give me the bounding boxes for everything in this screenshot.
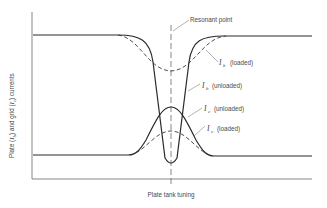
svg-text:(loaded): (loaded) — [217, 125, 240, 133]
svg-text:I: I — [206, 124, 210, 133]
curve-ic-unloaded — [33, 107, 312, 156]
leader-ic-unloaded — [188, 108, 202, 117]
label-ic-unloaded: I c (unloaded) — [203, 104, 244, 114]
x-axis-label: Plate tank tuning — [148, 191, 195, 199]
svg-text:I: I — [203, 104, 207, 113]
svg-text:b: b — [206, 86, 209, 91]
svg-text:b: b — [223, 63, 226, 68]
svg-text:c: c — [211, 129, 214, 134]
label-ic-loaded: I c (loaded) — [206, 124, 240, 134]
svg-text:(unloaded): (unloaded) — [212, 82, 242, 90]
label-ib-unloaded: I b (unloaded) — [201, 81, 242, 91]
svg-text:I: I — [201, 81, 205, 90]
curve-ib-loaded — [118, 35, 226, 71]
curve-ib-unloaded — [33, 35, 312, 163]
label-ib-loaded: I b (loaded) — [218, 58, 253, 68]
svg-text:c: c — [208, 109, 211, 114]
y-axis-label: Plate (Ib) and grid (Ic) currents — [8, 73, 17, 158]
leader-ic-loaded — [194, 126, 205, 136]
svg-text:I: I — [218, 58, 222, 67]
svg-text:Plate (Ib) and grid (Ic) curre: Plate (Ib) and grid (Ic) currents — [8, 73, 17, 158]
leader-ib-unloaded — [188, 84, 200, 91]
svg-text:(unloaded): (unloaded) — [214, 105, 244, 113]
resonant-leader — [173, 20, 189, 31]
leader-ib-loaded — [206, 50, 218, 62]
svg-text:(loaded): (loaded) — [230, 59, 253, 67]
resonant-point-label: Resonant point — [190, 16, 233, 24]
tuning-diagram: Resonant point I b (loaded) I b (unloade… — [0, 0, 327, 208]
